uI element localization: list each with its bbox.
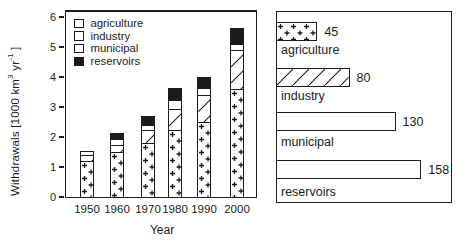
y-tick-mark [59, 16, 64, 17]
y-axis-title: Withdrawals [1000 km3 yr-1 ] [7, 47, 21, 196]
hbar-value-reservoirs: 158 [428, 163, 449, 177]
y-tick-label: 0 [34, 191, 56, 203]
y-tick-mark [59, 46, 64, 47]
bar-segment-1980-reservoirs [168, 88, 182, 101]
bar-segment-2000-industry [230, 50, 244, 90]
bar-segment-1990-industry [197, 95, 211, 123]
bar-segment-1960-industry [110, 145, 124, 154]
y-tick-label: 5 [34, 41, 56, 53]
bar-segment-1970-industry [141, 130, 155, 145]
hbar-value-industry: 80 [357, 71, 371, 85]
bar-segment-1990-municipal [197, 88, 211, 97]
x-tick-label-1950: 1950 [70, 203, 104, 216]
hbar-agriculture [276, 22, 317, 41]
y-tick-mark [59, 106, 64, 107]
bar-segment-1970-agriculture [141, 143, 155, 198]
hbar-label-agriculture: agriculture [281, 43, 339, 57]
hbar-label-municipal: municipal [281, 135, 334, 149]
x-tick-label-1960: 1960 [100, 203, 134, 216]
x-tick-label-1990: 1990 [187, 203, 221, 216]
bar-segment-2000-municipal [230, 44, 244, 51]
bar-segment-1990-reservoirs [197, 77, 211, 89]
y-tick-mark [59, 196, 64, 197]
bar-segment-1980-municipal [168, 100, 182, 110]
y-tick-label: 3 [34, 101, 56, 113]
bar-segment-1980-industry [168, 109, 182, 131]
y-tick-mark [59, 136, 64, 137]
bar-segment-1960-municipal [110, 139, 124, 146]
bar-segment-1990-agriculture [197, 122, 211, 198]
bar-segment-2000-agriculture [230, 89, 244, 198]
hbar-reservoirs [276, 160, 421, 179]
legend-label-reservoirs: reservoirs [91, 55, 141, 67]
y-tick-mark [59, 166, 64, 167]
x-tick-label-2000: 2000 [220, 203, 254, 216]
bar-segment-1950-agriculture [80, 161, 94, 198]
legend-row-reservoirs: reservoirs [74, 51, 140, 69]
bar-segment-1960-agriculture [110, 152, 124, 198]
hbar-label-industry: industry [281, 89, 325, 103]
bar-segment-1960-reservoirs [110, 133, 124, 140]
x-axis-title: Year [131, 223, 193, 237]
bar-segment-1970-reservoirs [141, 116, 155, 126]
y-tick-label: 4 [34, 71, 56, 83]
bar-segment-1950-municipal [80, 151, 94, 157]
bar-segment-1980-agriculture [168, 130, 182, 199]
hbar-value-agriculture: 45 [324, 25, 338, 39]
hbar-industry [276, 68, 350, 87]
hbar-municipal [276, 112, 396, 131]
y-tick-label: 1 [34, 161, 56, 173]
hbar-label-reservoirs: reservoirs [281, 185, 336, 199]
legend-swatch-reservoirs [74, 57, 84, 67]
bar-segment-2000-reservoirs [230, 28, 244, 46]
bar-segment-1950-industry [80, 155, 94, 162]
hbar-value-municipal: 130 [403, 115, 424, 129]
y-tick-mark [59, 76, 64, 77]
y-tick-label: 6 [34, 11, 56, 23]
y-tick-label: 2 [34, 131, 56, 143]
